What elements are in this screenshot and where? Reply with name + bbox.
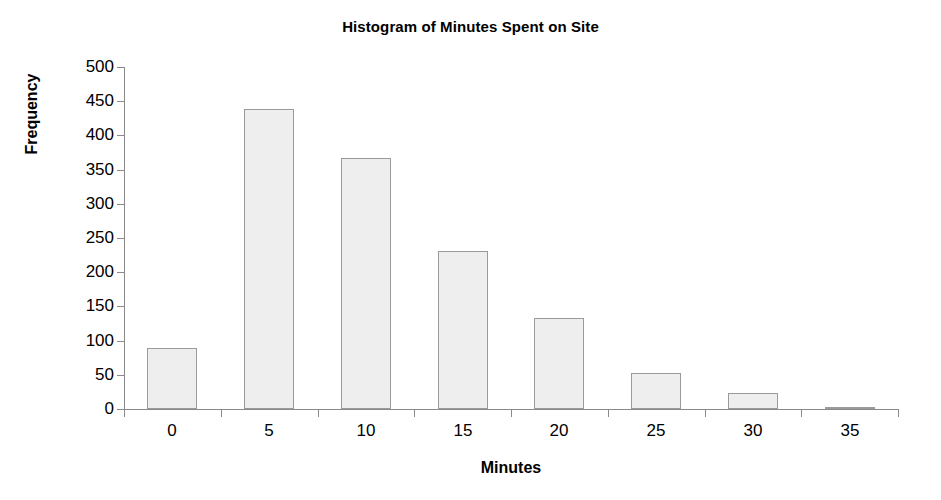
y-tick-label-text: 450: [66, 92, 114, 109]
y-tick-label-text: 300: [66, 195, 114, 212]
plot-area: [124, 67, 898, 409]
x-tick-mark: [705, 409, 706, 417]
histogram-bar: [438, 251, 488, 409]
y-tick-mark: [117, 409, 124, 410]
y-tick-label-text: 250: [66, 229, 114, 246]
y-tick-mark: [117, 341, 124, 342]
histogram-bar: [631, 373, 681, 409]
histogram-bar: [341, 158, 391, 409]
y-tick-mark: [117, 238, 124, 239]
y-tick-label-text: 150: [66, 297, 114, 314]
x-tick-mark: [221, 409, 222, 417]
x-tick-label: 25: [626, 421, 686, 441]
y-tick-label-text: 350: [66, 161, 114, 178]
y-tick-label-text: 0: [66, 400, 114, 417]
x-tick-mark: [608, 409, 609, 417]
histogram-bar: [147, 348, 197, 409]
y-tick-label-text: 500: [66, 58, 114, 75]
x-tick-label: 5: [239, 421, 299, 441]
y-tick-label: 400: [58, 126, 114, 144]
y-tick-mark: [117, 306, 124, 307]
x-tick-mark: [318, 409, 319, 417]
y-tick-mark: [117, 170, 124, 171]
y-tick-label: 50: [58, 366, 114, 384]
x-tick-label: 20: [529, 421, 589, 441]
x-tick-mark: [898, 409, 899, 417]
y-tick-mark: [117, 375, 124, 376]
x-tick-label: 30: [723, 421, 783, 441]
chart-title: Histogram of Minutes Spent on Site: [0, 18, 941, 35]
y-tick-label-text: 100: [66, 332, 114, 349]
y-tick-label: 100: [58, 332, 114, 350]
histogram-bar: [534, 318, 584, 409]
x-tick-mark: [511, 409, 512, 417]
y-axis-title: Frequency: [20, 34, 44, 194]
histogram-bar: [244, 109, 294, 409]
x-tick-mark: [801, 409, 802, 417]
y-tick-label: 150: [58, 297, 114, 315]
x-tick-label: 10: [336, 421, 396, 441]
x-tick-mark: [414, 409, 415, 417]
y-tick-label: 300: [58, 195, 114, 213]
x-tick-label: 0: [142, 421, 202, 441]
x-tick-label: 35: [820, 421, 880, 441]
y-tick-mark: [117, 135, 124, 136]
y-tick-mark: [117, 204, 124, 205]
y-tick-mark: [117, 67, 124, 68]
y-tick-label: 250: [58, 229, 114, 247]
histogram-bar: [728, 393, 778, 409]
y-tick-label: 450: [58, 92, 114, 110]
x-tick-label: 15: [433, 421, 493, 441]
y-tick-label: 0: [58, 400, 114, 418]
y-tick-label-text: 400: [66, 126, 114, 143]
y-tick-mark: [117, 101, 124, 102]
y-tick-mark: [117, 272, 124, 273]
x-axis-title: Minutes: [124, 459, 898, 477]
histogram-chart: Histogram of Minutes Spent on Site Frequ…: [0, 0, 941, 500]
y-tick-label-text: 50: [66, 366, 114, 383]
y-tick-label: 200: [58, 263, 114, 281]
histogram-bar: [825, 407, 875, 409]
y-tick-label: 500: [58, 58, 114, 76]
y-tick-label: 350: [58, 161, 114, 179]
y-tick-label-text: 200: [66, 263, 114, 280]
x-tick-mark: [124, 409, 125, 417]
